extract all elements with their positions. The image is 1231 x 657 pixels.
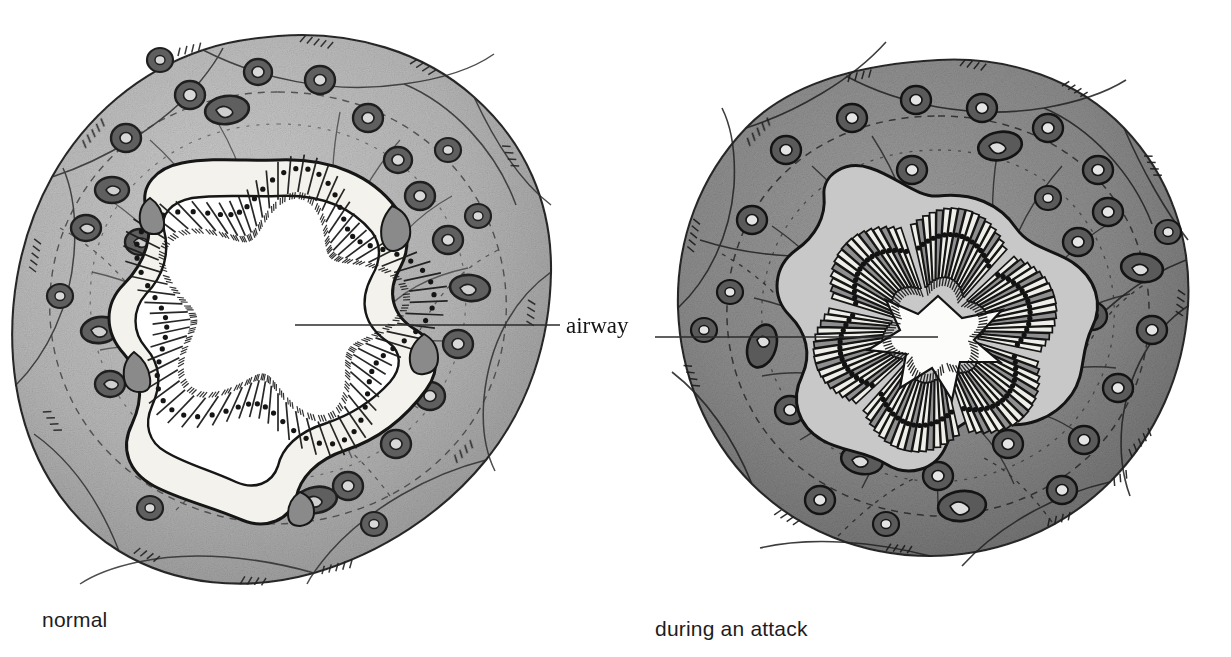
caption-during-attack: during an attack: [655, 617, 808, 641]
illustration-stage: airway normal during an attack: [0, 0, 1231, 657]
panel-attack: [672, 42, 1188, 566]
panel-normal: [12, 35, 551, 587]
caption-normal: normal: [42, 608, 107, 632]
airway-label: airway: [566, 313, 629, 339]
